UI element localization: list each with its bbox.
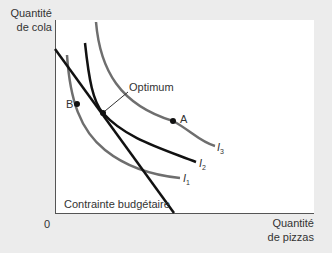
optimum-point [100,110,106,116]
y-axis-label-line1: Quantité [2,6,52,20]
y-axis-label-line2: de cola [2,20,52,34]
point-a [170,118,176,124]
i1-label: I1 [183,172,190,186]
optimum-label: Optimum [129,80,174,94]
i3-label: I3 [217,141,224,155]
i3-subscript: 3 [220,148,224,155]
indifference-curve-i2 [85,43,196,162]
budget-constraint-label: Contrainte budgétaire [64,197,170,211]
x-axis-label-line1: Quantité [250,216,314,230]
point-a-label: A [180,112,187,126]
i2-label: I2 [199,157,206,171]
i2-subscript: 2 [202,164,206,171]
x-axis-label-line2: de pizzas [250,230,314,244]
origin-label: 0 [44,217,50,231]
optimum-leader-line [105,92,128,111]
i1-subscript: 1 [186,179,190,186]
x-axis-label: Quantité de pizzas [250,216,314,244]
budget-line [55,49,174,213]
point-b-label: B [66,97,73,111]
y-axis-label: Quantité de cola [2,6,52,34]
point-b [74,101,80,107]
